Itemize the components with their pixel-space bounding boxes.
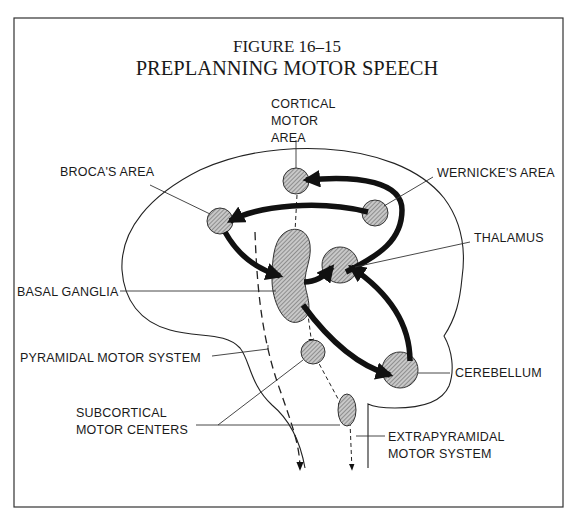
basal-ganglia-to-thalamus-arrow [304, 267, 332, 282]
cerebellum-to-thalamus-arrow [351, 267, 410, 361]
figure-diagram: FIGURE 16–15 PREPLANNING MOTOR SPEECH CO… [0, 0, 574, 521]
label-basal-ganglia: BASAL GANGLIA [17, 285, 119, 299]
figure-title: PREPLANNING MOTOR SPEECH [136, 57, 439, 79]
label-wernickes-area: WERNICKE'S AREA [437, 166, 555, 180]
broca-leader [150, 185, 210, 214]
label-cortical-motor-area: CORTICAL MOTOR AREA [271, 97, 339, 145]
label-extrapyramidal-motor-system: EXTRAPYRAMIDAL MOTOR SYSTEM [388, 430, 508, 461]
figure-number: FIGURE 16–15 [233, 37, 341, 56]
broca-to-basal-ganglia-arrow [225, 232, 280, 276]
subcortical-center-region [301, 340, 325, 364]
subcortical-center-small-region [338, 394, 356, 426]
brocas-area-region [207, 208, 233, 234]
cortical-motor-area-region [283, 168, 309, 194]
label-cerebellum: CEREBELLUM [455, 366, 542, 380]
label-brocas-area: BROCA'S AREA [60, 165, 155, 179]
wernicke-to-broca-arrow [230, 205, 368, 221]
subcortical-leader-upper [218, 360, 303, 425]
subcortical-to-extrapyramidal-dashed-path [316, 358, 343, 408]
pyramidal-leader [212, 345, 268, 356]
extrapyramidal-dashed-path [350, 422, 352, 470]
label-subcortical-motor-centers: SUBCORTICAL MOTOR CENTERS [76, 406, 188, 437]
label-thalamus: THALAMUS [474, 231, 544, 245]
label-pyramidal-motor-system: PYRAMIDAL MOTOR SYSTEM [20, 351, 201, 365]
